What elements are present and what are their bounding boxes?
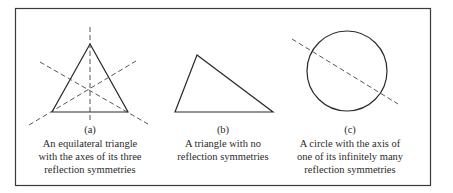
panel-b-label: (b) (217, 124, 230, 136)
panel-c-label: (c) (344, 124, 356, 136)
panel-a-caption-3: reflection symmetries (44, 164, 135, 175)
panel-c: (c) A circle with the axis of one of its… (292, 31, 404, 175)
panel-c-caption-2: one of its infinitely many (297, 151, 404, 162)
axis-left-diagonal (40, 62, 148, 124)
scalene-triangle (175, 55, 273, 112)
axis-right-diagonal (29, 61, 136, 125)
panel-b: (b) A triangle with no reflection symmet… (175, 55, 273, 162)
axis-diagonal (292, 39, 398, 104)
panel-a-caption-1: An equilateral triangle (43, 138, 138, 149)
panel-a-caption-2: with the axes of its three (39, 151, 142, 162)
panel-b-caption-1: A triangle with no (185, 138, 261, 149)
circle (307, 31, 387, 111)
panel-a-label: (a) (84, 124, 96, 136)
panel-c-caption-3: reflection symmetries (304, 164, 395, 175)
reflection-symmetry-figure: (a) An equilateral triangle with the axe… (0, 0, 453, 193)
panel-c-caption-1: A circle with the axis of (300, 138, 401, 149)
panel-a: (a) An equilateral triangle with the axe… (29, 27, 148, 175)
panel-b-caption-2: reflection symmetries (177, 151, 268, 162)
